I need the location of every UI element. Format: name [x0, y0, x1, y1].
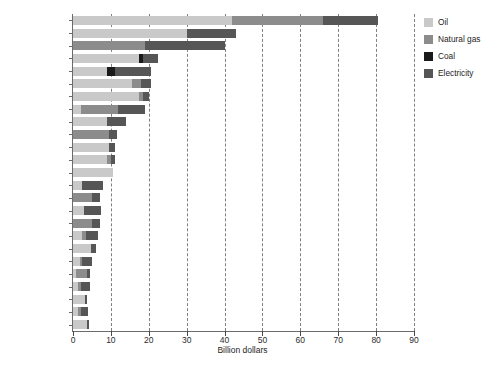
bar-segment-coal — [107, 67, 115, 76]
bar-segment-electricity — [81, 282, 90, 291]
legend-item[interactable]: Natural gas — [424, 31, 480, 48]
x-axis-tick-label: 90 — [409, 335, 418, 345]
bar-segment-electricity — [107, 117, 126, 126]
legend-item[interactable]: Coal — [424, 48, 480, 65]
bar-segment-electricity — [143, 54, 158, 63]
bar-segment-oil — [73, 168, 113, 177]
chart-bar-row: Venezuela — [73, 90, 414, 102]
bar-segment-oil — [73, 105, 81, 114]
bar-segment-natural-gas — [132, 79, 141, 88]
bar-segment-electricity — [85, 295, 87, 304]
chart-bar-row: Qatar — [73, 306, 414, 318]
bar-segment-oil — [73, 295, 85, 304]
chart-legend: OilNatural gasCoalElectricity — [424, 14, 480, 82]
bar-segment-electricity — [82, 257, 92, 266]
bar-segment-electricity — [87, 269, 90, 278]
chart-bar-row: Kuwait — [73, 205, 414, 217]
bar-segment-oil — [73, 29, 187, 38]
chart-bar-row: UAE — [73, 103, 414, 115]
chart-bar-row: Argentina — [73, 230, 414, 242]
legend-item[interactable]: Oil — [424, 14, 480, 31]
legend-swatch-icon — [424, 52, 433, 61]
bar-segment-oil — [73, 155, 107, 164]
bar-segment-electricity — [141, 79, 150, 88]
chart-bar-row: Uzbekistan — [73, 128, 414, 140]
chart-bar-row: Saudi Arabia — [73, 27, 414, 39]
legend-label: Natural gas — [438, 35, 480, 44]
bar-segment-oil — [73, 79, 132, 88]
x-axis-tick-label: 20 — [144, 335, 153, 345]
bar-segment-oil — [73, 16, 232, 25]
chart-figure: 0102030405060708090IranSaudi ArabiaRussi… — [0, 0, 500, 375]
x-axis-tick-label: 70 — [333, 335, 342, 345]
bar-segment-natural-gas — [73, 219, 92, 228]
x-axis-title: Billion dollars — [72, 345, 413, 355]
legend-label: Electricity — [438, 69, 474, 78]
legend-item[interactable]: Electricity — [424, 65, 480, 82]
chart-bar-row: Libya — [73, 293, 414, 305]
chart-bar-row: Iran — [73, 14, 414, 26]
bar-segment-electricity — [86, 231, 97, 240]
bar-segment-natural-gas — [232, 16, 323, 25]
chart-bar-row: Pakistan — [73, 217, 414, 229]
bar-segment-electricity — [109, 143, 115, 152]
legend-label: Coal — [438, 52, 455, 61]
x-axis-tick-label: 60 — [296, 335, 305, 345]
bar-segment-electricity — [92, 193, 100, 202]
bar-segment-oil — [73, 67, 107, 76]
chart-bar-row: Ecuador — [73, 319, 414, 331]
bar-segment-electricity — [187, 29, 236, 38]
x-axis-tick-label: 40 — [220, 335, 229, 345]
chart-bar-row: Egypt — [73, 78, 414, 90]
bar-segment-electricity — [111, 155, 115, 164]
chart-bar-row: Indonesia — [73, 116, 414, 128]
bar-segment-electricity — [145, 41, 225, 50]
legend-swatch-icon — [424, 69, 433, 78]
bar-segment-natural-gas — [76, 269, 87, 278]
legend-label: Oil — [438, 18, 448, 27]
bar-segment-natural-gas — [73, 130, 109, 139]
bar-segment-oil — [73, 231, 82, 240]
bar-segment-electricity — [82, 181, 103, 190]
chart-bar-row: Kazakhstan — [73, 281, 414, 293]
bar-segment-natural-gas — [73, 193, 92, 202]
bar-segment-electricity — [109, 130, 117, 139]
bar-segment-electricity — [143, 92, 149, 101]
bar-segment-electricity — [84, 206, 101, 215]
x-axis-tick-label: 10 — [106, 335, 115, 345]
bar-segment-oil — [73, 244, 91, 253]
chart-bar-row: Russia — [73, 40, 414, 52]
bar-segment-natural-gas — [73, 41, 145, 50]
bar-segment-electricity — [87, 320, 89, 329]
x-axis-tick-label: 0 — [71, 335, 76, 345]
bar-segment-electricity — [118, 105, 145, 114]
chart-bar-row: Thailand — [73, 179, 414, 191]
bar-segment-oil — [73, 206, 84, 215]
bar-segment-electricity — [81, 307, 88, 316]
chart-bar-row: Bangladesh — [73, 255, 414, 267]
x-axis-tick-label: 30 — [182, 335, 191, 345]
x-axis-tick-label: 80 — [371, 335, 380, 345]
chart-bar-row: Iraq — [73, 141, 414, 153]
bar-segment-oil — [73, 320, 87, 329]
chart-bar-row: Turkmenistan — [73, 268, 414, 280]
bar-segment-oil — [73, 143, 109, 152]
chart-bar-row: Ukraine — [73, 192, 414, 204]
bar-segment-oil — [73, 117, 107, 126]
chart-bar-row: Mexico — [73, 167, 414, 179]
grid-line — [414, 14, 415, 331]
bar-segment-electricity — [92, 219, 100, 228]
bar-segment-electricity — [323, 16, 378, 25]
legend-swatch-icon — [424, 35, 433, 44]
bar-segment-oil — [73, 181, 82, 190]
chart-bar-row: India — [73, 52, 414, 64]
legend-swatch-icon — [424, 18, 433, 27]
bar-segment-electricity — [115, 67, 151, 76]
plot-area: 0102030405060708090IranSaudi ArabiaRussi… — [72, 14, 414, 332]
chart-bar-row: Algeria — [73, 154, 414, 166]
bar-segment-electricity — [91, 244, 96, 253]
bar-segment-oil — [73, 92, 139, 101]
bar-segment-oil — [73, 54, 139, 63]
chart-bar-row: Malaysia — [73, 243, 414, 255]
chart-bar-row: China — [73, 65, 414, 77]
